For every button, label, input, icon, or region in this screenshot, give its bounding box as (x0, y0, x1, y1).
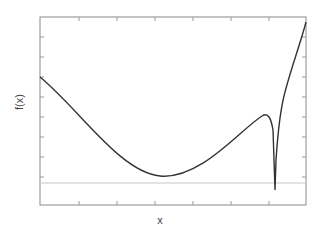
y-ticks (40, 37, 306, 177)
x-ticks (79, 17, 269, 205)
axes-frame (40, 17, 306, 205)
plot-area (0, 0, 320, 233)
x-axis-label: x (152, 214, 168, 226)
y-axis-label: f(x) (13, 89, 25, 115)
function-curve (40, 22, 306, 190)
